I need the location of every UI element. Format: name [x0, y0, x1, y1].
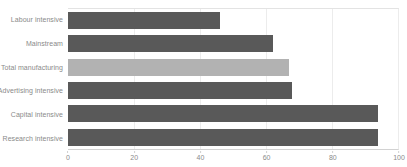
- x-tick: 20: [130, 151, 138, 162]
- x-tick-label: 20: [130, 154, 138, 162]
- bar-row: [68, 126, 398, 149]
- x-tick-label: 60: [263, 154, 271, 162]
- value-axis: 020406080100: [68, 151, 399, 165]
- category-label-row: Total manufacturing: [0, 55, 66, 79]
- bar-advertising-intensive[interactable]: [68, 82, 292, 99]
- x-tick-mark: [200, 151, 201, 153]
- bar-research-intensive[interactable]: [68, 129, 378, 146]
- bar-row: [68, 102, 398, 125]
- x-tick-mark: [134, 151, 135, 153]
- bars-layer: [68, 9, 398, 149]
- bar-capital-intensive[interactable]: [68, 105, 378, 122]
- gridline: [398, 9, 399, 149]
- x-tick-mark: [399, 151, 400, 153]
- plot-area: [68, 8, 399, 150]
- bar-row: [68, 79, 398, 102]
- x-tick: 0: [66, 151, 70, 162]
- bar-total-manufacturing[interactable]: [68, 59, 289, 76]
- bar-labour-intensive[interactable]: [68, 12, 220, 29]
- x-tick-label: 80: [329, 154, 337, 162]
- x-tick-mark: [68, 151, 69, 153]
- x-tick-label: 40: [196, 154, 204, 162]
- x-tick-mark: [266, 151, 267, 153]
- category-label-row: Capital intensive: [0, 103, 66, 127]
- bar-chart: Labour intensive Mainstream Total manufa…: [0, 0, 407, 167]
- x-tick: 40: [196, 151, 204, 162]
- category-label-labour-intensive: Labour intensive: [11, 15, 63, 24]
- x-tick-label: 100: [393, 154, 405, 162]
- category-label-total-manufacturing: Total manufacturing: [1, 63, 63, 72]
- x-tick: 100: [393, 151, 405, 162]
- category-label-row: Research intensive: [0, 126, 66, 150]
- bar-row: [68, 9, 398, 32]
- category-label-mainstream: Mainstream: [26, 39, 63, 48]
- category-axis: Labour intensive Mainstream Total manufa…: [0, 8, 66, 150]
- category-label-row: Labour intensive: [0, 8, 66, 32]
- category-label-research-intensive: Research intensive: [3, 134, 63, 143]
- bar-mainstream[interactable]: [68, 35, 273, 52]
- category-label-capital-intensive: Capital intensive: [11, 110, 63, 119]
- category-label-row: Mainstream: [0, 32, 66, 56]
- bar-row: [68, 56, 398, 79]
- x-tick: 60: [263, 151, 271, 162]
- x-tick-mark: [332, 151, 333, 153]
- x-tick-label: 0: [66, 154, 70, 162]
- x-tick: 80: [329, 151, 337, 162]
- bar-row: [68, 32, 398, 55]
- category-label-row: Advertising intensive: [0, 79, 66, 103]
- category-label-advertising-intensive: Advertising intensive: [0, 86, 63, 95]
